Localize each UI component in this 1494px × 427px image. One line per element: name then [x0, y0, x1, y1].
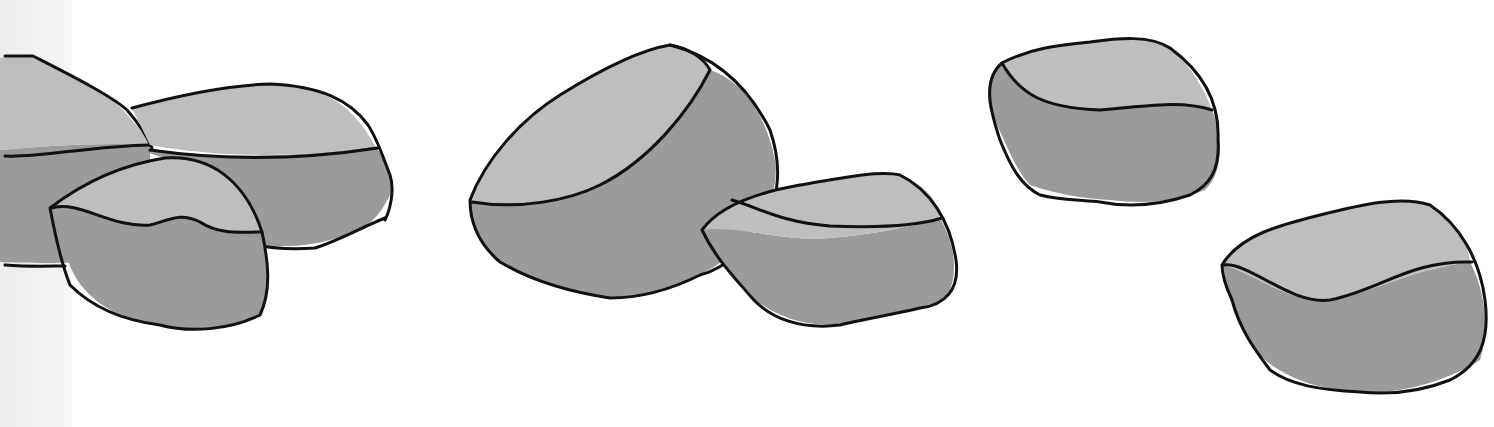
- rock-top-right: [988, 39, 1220, 206]
- rock-bottom-right: [1222, 201, 1486, 393]
- rock-outline: [5, 265, 65, 266]
- rock-top-face: [0, 56, 150, 150]
- rock-top-face: [132, 84, 375, 155]
- rocks-illustration: [0, 0, 1494, 427]
